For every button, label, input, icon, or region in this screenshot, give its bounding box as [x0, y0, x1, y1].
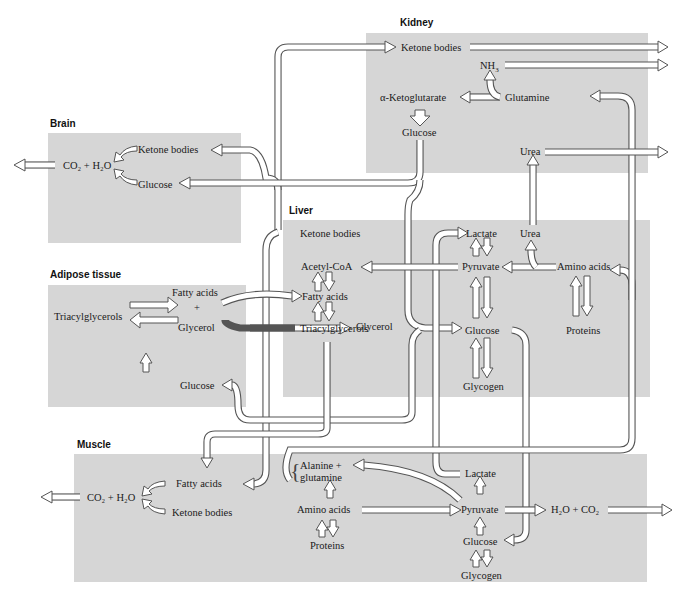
- kidney-title: Kidney: [400, 17, 434, 28]
- muscle-h2o-co2: H₂O + CO₂: [551, 504, 600, 515]
- adipose-glucose: Glucose: [180, 380, 215, 391]
- muscle-proteins: Proteins: [310, 540, 344, 551]
- muscle-glutamine: glutamine: [300, 472, 342, 483]
- adipose-title: Adipose tissue: [50, 269, 122, 280]
- arrow-left-icon: [14, 159, 25, 171]
- liver-urea: Urea: [520, 228, 541, 239]
- arrow-right-icon: [658, 146, 668, 158]
- liver-title: Liver: [289, 205, 313, 216]
- kidney-ketone-bodies: Ketone bodies: [401, 42, 461, 53]
- adipose-plus: +: [194, 302, 200, 313]
- muscle-pyruvate: Pyruvate: [461, 504, 499, 515]
- liver-glycerol: Glycerol: [356, 321, 393, 332]
- liver-proteins: Proteins: [566, 325, 600, 336]
- brain-co2-h2o: CO₂ + H₂O: [63, 160, 112, 171]
- brain-title: Brain: [50, 118, 76, 129]
- muscle-ketone-bodies: Ketone bodies: [172, 507, 232, 518]
- arrow-right-icon: [662, 504, 672, 516]
- kidney-glucose: Glucose: [402, 127, 437, 138]
- metabolic-interorgan-diagram: Kidney Brain Adipose tissue Liver Muscle: [0, 0, 685, 600]
- muscle-glycogen: Glycogen: [461, 570, 503, 581]
- adipose-triacylglycerols: Triacylglycerols: [54, 311, 122, 322]
- arrow-left-icon: [41, 491, 52, 503]
- liver-lactate: Lactate: [466, 228, 497, 239]
- liver-amino-acids: Amino acids: [557, 261, 610, 272]
- liver-ketone-bodies: Ketone bodies: [300, 228, 360, 239]
- brain-ketone-bodies: Ketone bodies: [138, 144, 198, 155]
- kidney-alpha-ketoglutarate: α-Ketoglutarate: [380, 92, 446, 103]
- kidney-glutamine: Glutamine: [505, 92, 550, 103]
- arrow-right-icon: [658, 41, 668, 53]
- kidney-urea: Urea: [520, 146, 541, 157]
- adipose-glycerol: Glycerol: [178, 322, 215, 333]
- muscle-co2-h2o: CO₂ + H₂O: [87, 492, 136, 503]
- brain-glucose: Glucose: [138, 179, 173, 190]
- liver-glucose: Glucose: [465, 325, 500, 336]
- liver-fatty-acids: Fatty acids: [302, 291, 348, 302]
- liver-region: [283, 220, 650, 397]
- muscle-title: Muscle: [77, 439, 111, 450]
- liver-glycogen: Glycogen: [463, 381, 505, 392]
- muscle-lactate: Lactate: [465, 468, 496, 479]
- muscle-amino-acids: Amino acids: [297, 504, 350, 515]
- liver-pyruvate: Pyruvate: [462, 261, 500, 272]
- muscle-fatty-acids: Fatty acids: [176, 478, 222, 489]
- muscle-alanine: Alanine +: [300, 460, 342, 471]
- muscle-region: [74, 454, 647, 582]
- adipose-fatty-acids: Fatty acids: [172, 287, 218, 298]
- muscle-glucose: Glucose: [463, 536, 498, 547]
- muscle-brace: {: [290, 458, 301, 483]
- arrow-right-icon: [658, 59, 668, 71]
- liver-acetyl-coa: Acetyl-CoA: [301, 261, 353, 272]
